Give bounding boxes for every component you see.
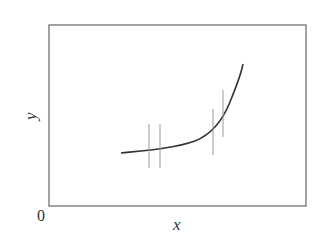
figure: 0 x y [0, 0, 331, 244]
x-axis-label: x [172, 215, 181, 234]
origin-label: 0 [37, 207, 45, 224]
y-axis-label: y [21, 112, 40, 122]
flat-region-markers [149, 124, 160, 168]
plot-frame [49, 25, 306, 206]
growth-curve [121, 64, 243, 153]
